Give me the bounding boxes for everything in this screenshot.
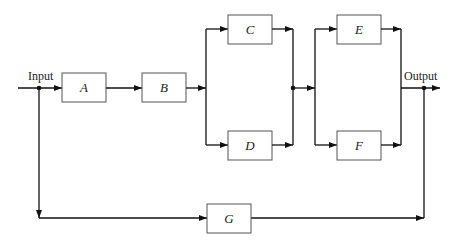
block-f: F bbox=[337, 131, 381, 160]
merge-bus-ef bbox=[381, 29, 401, 145]
block-g: G bbox=[207, 204, 251, 233]
block-a-label: A bbox=[79, 80, 88, 95]
block-d: D bbox=[228, 131, 272, 160]
block-e-label: E bbox=[354, 22, 363, 37]
merge-bus-cd bbox=[272, 29, 315, 145]
block-a: A bbox=[62, 73, 106, 102]
block-e: E bbox=[337, 15, 381, 44]
split-bus-ef bbox=[315, 29, 337, 145]
block-f-label: F bbox=[354, 138, 364, 153]
block-g-label: G bbox=[224, 211, 234, 226]
block-c: C bbox=[228, 15, 272, 44]
block-b-label: B bbox=[160, 80, 168, 95]
block-c-label: C bbox=[246, 22, 255, 37]
block-d-label: D bbox=[244, 138, 255, 153]
block-b: B bbox=[142, 73, 186, 102]
block-diagram: Input A B C D E bbox=[0, 0, 456, 242]
input-wire bbox=[18, 86, 62, 91]
split-bus-cd bbox=[206, 29, 228, 145]
output-label: Output bbox=[404, 69, 438, 83]
input-label: Input bbox=[28, 69, 54, 83]
output-wire bbox=[401, 86, 440, 91]
